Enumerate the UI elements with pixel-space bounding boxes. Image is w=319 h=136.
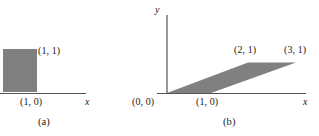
panel-b-y-axis-label: y [155, 4, 160, 15]
parallelogram-shape [167, 63, 296, 94]
panel-b-caption: (b) [223, 116, 236, 127]
panel-b-label-point-1-0: (1, 0) [196, 96, 218, 107]
unit-square-shape [3, 49, 37, 92]
panel-a-caption: (a) [38, 116, 50, 127]
panel-b-label-point-3-1: (3, 1) [284, 44, 306, 55]
panel-b-label-point-0-0: (0, 0) [132, 96, 154, 107]
panel-a-label-point-1-1: (1, 1) [38, 45, 60, 56]
panel-b-label-point-2-1: (2, 1) [234, 44, 256, 55]
panel-b-x-axis-label: x [303, 96, 308, 107]
figure-container: (1, 1) (1, 0) x (a) y (2, 1) (3, 1) (0, … [0, 0, 319, 136]
panel-a-label-point-1-0: (1, 0) [20, 96, 42, 107]
panel-a-x-axis-label: x [85, 96, 90, 107]
